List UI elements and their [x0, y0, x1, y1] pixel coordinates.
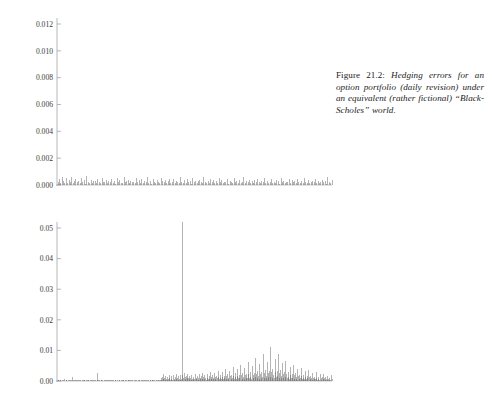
chart-portfolio-hedging-errors-1987: 0.000.010.020.030.040.05: [0, 204, 340, 408]
data-trace: [58, 222, 332, 381]
figure-21-3-block: 0.000.010.020.030.040.05 Figure 21.3: Po…: [0, 204, 492, 408]
figure-21-2-block: 0.0000.0020.0040.0060.0080.0100.012 Figu…: [0, 0, 492, 204]
y-axis-tick-label: 0.04: [40, 254, 53, 263]
chart-canvas-bottom: 0.000.010.020.030.040.05: [0, 204, 340, 408]
y-axis-tick-label: 0.008: [36, 73, 53, 82]
y-axis-tick-label: 0.000: [36, 181, 53, 190]
chart-hedging-errors-black-scholes: 0.0000.0020.0040.0060.0080.0100.012: [0, 0, 340, 204]
y-axis-tick-label: 0.012: [36, 20, 53, 29]
figure-21-2-caption: Figure 21.2: Hedging errors for an optio…: [336, 70, 484, 116]
figure-21-2-caption-label: Figure 21.2:: [336, 70, 385, 80]
y-axis-tick-label: 0.010: [36, 47, 53, 56]
y-axis-tick-label: 0.006: [36, 100, 53, 109]
chart-canvas-top: 0.0000.0020.0040.0060.0080.0100.012: [0, 0, 340, 204]
y-axis-tick-label: 0.02: [40, 316, 53, 325]
scanned-page: 0.0000.0020.0040.0060.0080.0100.012 Figu…: [0, 0, 492, 408]
y-axis-tick-label: 0.002: [36, 154, 53, 163]
y-axis-tick-label: 0.05: [40, 224, 53, 233]
y-axis-tick-label: 0.01: [40, 346, 53, 355]
y-axis-tick-label: 0.004: [36, 127, 53, 136]
data-trace: [58, 176, 332, 185]
y-axis-tick-label: 0.03: [40, 285, 53, 294]
y-axis-tick-label: 0.00: [40, 377, 53, 386]
